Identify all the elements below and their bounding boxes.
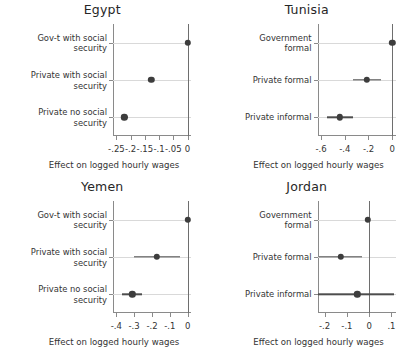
x-tick [173,136,174,140]
x-tick [321,136,322,140]
y-category-label: Private informal [226,112,312,123]
data-point[interactable] [129,291,135,297]
x-tick-label: 0 [185,321,190,331]
plot-area-jordan: -.2-.10.1Government formalPrivate formal… [318,201,396,313]
x-tick-label: -.2 [363,144,374,154]
reference-line [318,220,396,221]
x-tick-label: -.2 [125,144,136,154]
x-tick [134,313,135,317]
x-axis-title-egypt: Effect on logged hourly wages [34,160,194,170]
reference-line [113,220,191,221]
x-tick [145,136,146,140]
panel-title-egypt: Egypt [0,2,205,17]
data-point[interactable] [184,39,190,45]
y-category-label: Private no social security [21,284,107,305]
data-point[interactable] [185,216,191,222]
plot-area-yemen: -.4-.3-.2-.10Gov-t with social securityP… [113,201,191,313]
x-tick [347,313,348,317]
x-tick [392,136,393,140]
y-tick [109,43,113,44]
panel-title-jordan: Jordan [205,179,409,194]
x-tick-label: -.15 [137,144,154,154]
data-point[interactable] [354,291,360,297]
x-tick-label: -.1 [341,321,352,331]
y-category-label: Private with social security [21,247,107,268]
y-tick [314,43,318,44]
x-axis-title-jordan: Effect on logged hourly wages [239,337,399,347]
y-category-label: Gov-t with social security [21,32,107,53]
y-category-label: Private formal [226,75,312,86]
x-tick-label: -.1 [154,144,165,154]
data-point[interactable] [337,254,343,260]
data-point[interactable] [364,77,370,83]
x-axis-title-yemen: Effect on logged hourly wages [34,337,194,347]
x-tick [325,313,326,317]
y-tick [314,220,318,221]
reference-line [113,43,191,44]
panel-title-tunisia: Tunisia [205,2,409,17]
data-point[interactable] [389,39,395,45]
x-tick-label: -.4 [339,144,350,154]
x-tick [368,136,369,140]
panel-title-yemen: Yemen [0,179,205,194]
y-tick [109,257,113,258]
reference-line [318,43,396,44]
x-tick-label: -.6 [315,144,326,154]
x-tick-label: 0 [389,144,394,154]
y-tick [109,220,113,221]
data-point[interactable] [337,114,343,120]
panel-yemen: Yemen -.4-.3-.2-.10Gov-t with social sec… [0,177,205,354]
data-point[interactable] [154,254,160,260]
y-category-label: Private no social security [21,107,107,128]
x-tick [391,313,392,317]
x-tick-label: -.1 [164,321,175,331]
x-tick [116,136,117,140]
x-tick-label: -.2 [146,321,157,331]
x-tick-label: -.2 [319,321,330,331]
x-tick [152,313,153,317]
y-category-label: Private formal [226,252,312,263]
x-tick [345,136,346,140]
x-tick-label: -.25 [108,144,125,154]
y-category-label: Government formal [226,32,312,53]
plot-area-tunisia: -.6-.4-.20Government formalPrivate forma… [318,24,396,136]
x-axis-title-tunisia: Effect on logged hourly wages [239,160,399,170]
x-tick-label: 0 [366,321,371,331]
y-tick [314,80,318,81]
x-tick [188,136,189,140]
panel-grid: Egypt -.25-.2-.15-.1-.050Gov-t with soci… [0,0,409,354]
y-tick [109,117,113,118]
x-tick [159,136,160,140]
x-tick [116,313,117,317]
data-point[interactable] [121,114,127,120]
y-category-label: Gov-t with social security [21,209,107,230]
y-category-label: Private informal [226,289,312,300]
y-category-label: Private with social security [21,70,107,91]
x-tick-label: .1 [387,321,395,331]
x-axis-line [113,135,191,136]
data-point[interactable] [365,216,371,222]
y-tick [314,294,318,295]
y-category-label: Government formal [226,209,312,230]
panel-tunisia: Tunisia -.6-.4-.20Government formalPriva… [205,0,409,177]
x-tick-label: -.3 [129,321,140,331]
x-tick-label: 0 [185,144,190,154]
x-axis-line [318,312,396,313]
x-tick [131,136,132,140]
x-tick-label: -.4 [111,321,122,331]
panel-jordan: Jordan -.2-.10.1Government formalPrivate… [205,177,409,354]
x-tick-label: -.05 [165,144,182,154]
x-tick [170,313,171,317]
y-tick [314,257,318,258]
x-tick [188,313,189,317]
y-tick [109,80,113,81]
panel-egypt: Egypt -.25-.2-.15-.1-.050Gov-t with soci… [0,0,205,177]
plot-area-egypt: -.25-.2-.15-.1-.050Gov-t with social sec… [113,24,191,136]
y-tick [109,294,113,295]
y-tick [314,117,318,118]
x-tick [369,313,370,317]
data-point[interactable] [148,77,154,83]
x-axis-line [318,135,396,136]
